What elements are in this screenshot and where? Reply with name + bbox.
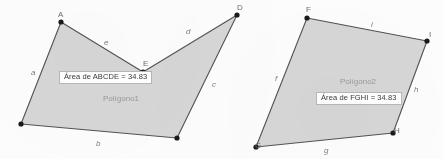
vertex-point-b[interactable] <box>18 121 23 126</box>
vertex-point-c[interactable] <box>174 135 179 140</box>
polygon2-group <box>253 15 429 149</box>
vertex-point-d[interactable] <box>234 12 239 17</box>
polygon1-area-label: Área de ABCDE = 34.83 <box>59 71 152 84</box>
polygon2-shape[interactable] <box>256 18 427 147</box>
polygon2-area-label: Área de FGHI = 34.83 <box>316 92 402 105</box>
vertex-point-h[interactable] <box>390 130 395 135</box>
vertex-point-a[interactable] <box>58 19 63 24</box>
vertex-point-f[interactable] <box>304 15 309 20</box>
geometry-canvas[interactable]: A E D e d c b a Polígono1 Área de ABCDE … <box>0 0 444 159</box>
vertex-point-i[interactable] <box>424 38 429 43</box>
vertex-point-g[interactable] <box>253 144 258 149</box>
